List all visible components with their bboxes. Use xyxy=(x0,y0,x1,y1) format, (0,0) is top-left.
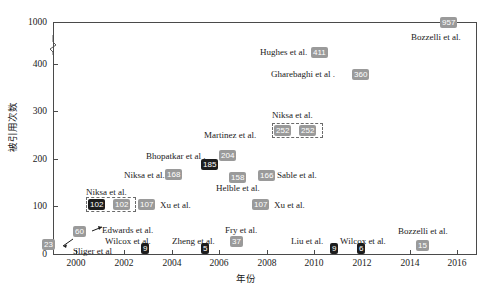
marker-sable-166[interactable]: 166 xyxy=(258,170,275,181)
marker-fry-37[interactable]: 37 xyxy=(230,236,243,247)
x-tick-label-2006: 2006 xyxy=(199,258,239,269)
annot-bozzelli-15: Bozzelli et al. xyxy=(398,226,448,236)
marker-bozzelli-957[interactable]: 957 xyxy=(440,17,457,28)
annot-martinez: Martinez et al. xyxy=(204,130,256,140)
annot-wilcox-9: Wilcox et al. xyxy=(105,236,151,246)
marker-edwards-60[interactable]: 60 xyxy=(73,226,86,237)
y-tick-label-1000: 1000 xyxy=(0,17,47,27)
x-tick-mark-2010 xyxy=(314,250,315,255)
x-tick-label-2014: 2014 xyxy=(390,258,430,269)
x-tick-mark-2016 xyxy=(457,250,458,255)
citation-scatter-figure: 1000 400 300 200 100 0 被引用次数 2000 2002 2… xyxy=(0,0,491,301)
annot-niksa-252: Niksa et al. xyxy=(272,110,313,120)
x-tick-mark-2006 xyxy=(219,250,220,255)
annot-hughes: Hughes et al. xyxy=(260,47,307,57)
x-tick-mark-2002 xyxy=(124,250,125,255)
annot-niksa-102: Niksa et al. xyxy=(86,187,127,197)
marker-liu-9[interactable]: 9 xyxy=(330,243,338,254)
x-tick-label-2000: 2000 xyxy=(56,258,96,269)
annot-sliger: Sliger et al xyxy=(73,246,112,256)
annot-liu: Liu et al. xyxy=(291,236,323,246)
annot-edwards: Edwards et al. xyxy=(102,225,153,235)
y-axis-title: 被引用次数 xyxy=(5,95,19,159)
x-tick-label-2008: 2008 xyxy=(247,258,287,269)
x-tick-mark-2014 xyxy=(410,250,411,255)
marker-bozzelli-15[interactable]: 15 xyxy=(416,240,429,251)
marker-niksa-252-b[interactable]: 252 xyxy=(299,125,316,136)
marker-niksa-102-a[interactable]: 102 xyxy=(88,199,105,210)
marker-helble-158[interactable]: 158 xyxy=(229,172,246,183)
marker-xu-107-b[interactable]: 107 xyxy=(252,199,269,210)
annot-bhopatkar: Bhopatkar et al . xyxy=(146,151,205,161)
marker-xu-107-a[interactable]: 107 xyxy=(138,199,155,210)
annot-helble: Helble et al. xyxy=(216,183,260,193)
annot-fry: Fry et al. xyxy=(225,225,257,235)
annot-sable: Sable et al. xyxy=(277,170,317,180)
annot-xu-107-a: Xu et al. xyxy=(160,200,191,210)
annot-zheng: Zheng et al. xyxy=(172,236,215,246)
x-tick-mark-2004 xyxy=(172,250,173,255)
y-tick-label-100: 100 xyxy=(0,201,47,211)
annot-wilcox-6: Wilcox et al. xyxy=(340,236,386,246)
x-tick-label-2012: 2012 xyxy=(342,258,382,269)
marker-niksa-102-b[interactable]: 102 xyxy=(113,199,130,210)
x-tick-label-2002: 2002 xyxy=(104,258,144,269)
marker-niksa-168[interactable]: 168 xyxy=(165,169,182,180)
x-tick-label-2004: 2004 xyxy=(152,258,192,269)
y-tick-label-400: 400 xyxy=(0,59,47,69)
x-axis-title: 年份 xyxy=(0,271,491,285)
marker-gharebaghi-360[interactable]: 360 xyxy=(352,69,369,80)
marker-bhopatkar-204[interactable]: 204 xyxy=(219,150,236,161)
y-tick-label-0: 0 xyxy=(0,249,47,259)
annot-bozzelli-957: Bozzelli et al. xyxy=(411,32,461,42)
x-tick-label-2010: 2010 xyxy=(294,258,334,269)
annot-xu-107-b: Xu et al. xyxy=(274,200,305,210)
x-tick-label-2016: 2016 xyxy=(437,258,477,269)
marker-niksa-252-a[interactable]: 252 xyxy=(274,125,291,136)
annot-gharebaghi: Gharebaghi et al . xyxy=(271,69,335,79)
x-tick-mark-2008 xyxy=(267,250,268,255)
annot-niksa-168: Niksa et al. xyxy=(124,170,165,180)
marker-sliger-23[interactable]: 23 xyxy=(42,239,55,250)
marker-hughes-411[interactable]: 411 xyxy=(311,47,328,58)
